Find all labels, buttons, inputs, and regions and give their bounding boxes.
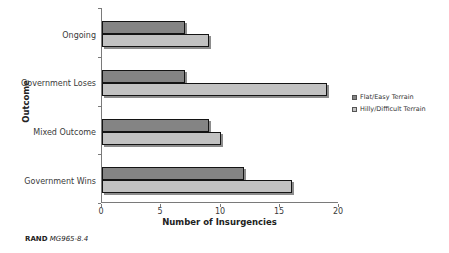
- figure: Outcome Number of Insurgencies Flat/Easy…: [0, 0, 449, 253]
- bar-flat-easy: [102, 167, 244, 180]
- bar-hilly-difficult: [102, 83, 327, 96]
- x-tick-label: 0: [91, 207, 111, 216]
- category-label: Mixed Outcome: [0, 127, 96, 138]
- figure-credit: RAND MG965-8.4: [25, 235, 88, 243]
- legend-label: Flat/Easy Terrain: [360, 93, 414, 101]
- x-axis-title: Number of Insurgencies: [101, 217, 338, 227]
- category-label: Government Loses: [0, 78, 96, 89]
- legend-swatch-icon: [352, 107, 357, 112]
- bar-hilly-difficult: [102, 34, 209, 47]
- y-axis-tick: [98, 57, 101, 58]
- bar-hilly-difficult: [102, 132, 221, 145]
- legend: Flat/Easy TerrainHilly/Difficult Terrain: [352, 93, 426, 117]
- bar-flat-easy: [102, 70, 185, 83]
- x-tick-label: 10: [210, 207, 230, 216]
- bar-hilly-difficult: [102, 180, 292, 193]
- y-axis-tick: [98, 106, 101, 107]
- figure-credit-reference: MG965-8.4: [50, 235, 88, 243]
- bar-flat-easy: [102, 119, 209, 132]
- y-axis-tick: [98, 203, 101, 204]
- legend-item: Hilly/Difficult Terrain: [352, 105, 426, 113]
- figure-credit-brand: RAND: [25, 235, 47, 243]
- legend-swatch-icon: [352, 95, 357, 100]
- bar-flat-easy: [102, 21, 185, 34]
- plot-area: [101, 8, 338, 203]
- y-axis-tick: [98, 154, 101, 155]
- x-tick-label: 20: [328, 207, 348, 216]
- y-axis-tick: [98, 8, 101, 9]
- legend-item: Flat/Easy Terrain: [352, 93, 426, 101]
- category-label: Ongoing: [0, 30, 96, 41]
- x-tick-label: 15: [269, 207, 289, 216]
- category-label: Government Wins: [0, 176, 96, 187]
- x-tick-label: 5: [150, 207, 170, 216]
- legend-label: Hilly/Difficult Terrain: [360, 105, 426, 113]
